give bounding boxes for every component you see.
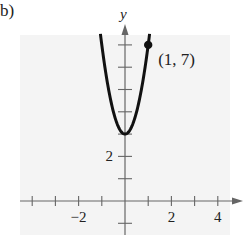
x-axis-arrow-icon	[232, 198, 243, 205]
panel-label: b)	[0, 1, 14, 20]
x-tick-label: 2	[168, 209, 176, 225]
point-label: (1, 7)	[158, 50, 195, 69]
point-marker	[144, 41, 152, 49]
x-tick-label: −2	[71, 209, 87, 225]
x-tick-label: 4	[214, 209, 222, 225]
y-tick-label: 2	[106, 148, 114, 164]
y-axis-arrow-icon	[122, 24, 129, 35]
y-axis-label: y	[118, 6, 127, 22]
parabola-figure: b) y −2242 (1, 7)	[0, 0, 248, 238]
